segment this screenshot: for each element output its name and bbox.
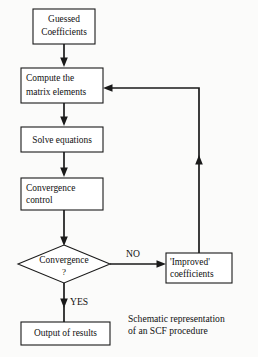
node-guessed-coefficients[interactable]: Guessed Coefficients <box>33 9 95 44</box>
flowchart-canvas: Guessed Coefficients Compute the matrix … <box>0 0 258 357</box>
node-guessed-line2: Coefficients <box>41 27 87 37</box>
node-compute-line1: Compute the <box>26 73 74 83</box>
diagram-caption: Schematic representation of an SCF proce… <box>128 313 225 336</box>
node-guessed-line1: Guessed <box>48 14 80 24</box>
caption-line1: Schematic representation <box>128 313 225 324</box>
node-improved-line2: coefficients <box>170 269 214 279</box>
flowchart-diagram: Guessed Coefficients Compute the matrix … <box>0 0 258 357</box>
caption-line2: of an SCF procedure <box>128 325 208 336</box>
edge-compute-to-solve <box>60 103 68 126</box>
node-convergence-control-line2: control <box>26 195 53 205</box>
edge-solve-to-control <box>60 152 68 177</box>
node-compute-line2: matrix elements <box>26 87 86 97</box>
node-solve-equations[interactable]: Solve equations <box>21 127 103 152</box>
node-convergence-decision[interactable]: Convergence ? <box>18 245 110 283</box>
node-solve-line1: Solve equations <box>32 135 92 145</box>
edge-guessed-to-compute <box>60 44 68 67</box>
edge-decision-yes-to-output <box>60 283 68 322</box>
node-output-line1: Output of results <box>34 328 97 338</box>
node-convergence-control[interactable]: Convergence control <box>21 178 103 210</box>
node-convergence-control-line1: Convergence <box>26 183 75 193</box>
node-compute-matrix-elements[interactable]: Compute the matrix elements <box>21 68 103 103</box>
edge-label-yes: YES <box>70 296 88 307</box>
edge-control-to-decision <box>60 210 68 246</box>
node-output-of-results[interactable]: Output of results <box>21 322 110 345</box>
node-improved-line1: 'Improved' <box>170 257 210 267</box>
edge-improved-feedback-to-compute <box>103 84 203 253</box>
node-improved-coefficients[interactable]: 'Improved' coefficients <box>166 253 232 283</box>
edge-label-no: NO <box>126 248 140 259</box>
node-decision-line1: Convergence <box>39 255 88 265</box>
node-decision-line2: ? <box>62 267 66 277</box>
edge-decision-no-to-improved <box>110 260 166 268</box>
